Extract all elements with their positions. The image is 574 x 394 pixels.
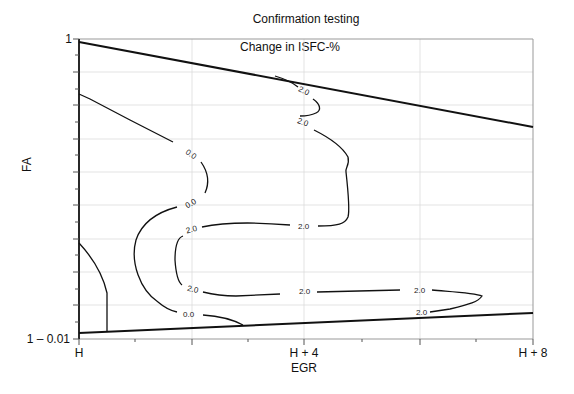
contour-label: 2.0 bbox=[416, 308, 428, 317]
contour-label: 2.0 bbox=[296, 116, 310, 128]
contour-label: 2.0 bbox=[186, 284, 200, 296]
contour-labels: 2.0 2.0 0.0 0.0 2.0 2.0 2.0 2.0 2.0 2.0 … bbox=[183, 85, 428, 319]
contour-label: 0.0 bbox=[184, 147, 199, 161]
contour-label: 2.0 bbox=[299, 287, 311, 296]
contour-plot: 2.0 2.0 0.0 0.0 2.0 2.0 2.0 2.0 2.0 2.0 … bbox=[0, 0, 574, 394]
contour-label: 2.0 bbox=[185, 224, 199, 236]
contour-label: 2.0 bbox=[414, 286, 426, 295]
contour-label: 2.0 bbox=[298, 222, 310, 231]
contour-label: 0.0 bbox=[183, 310, 195, 319]
contour-label: 2.0 bbox=[297, 85, 311, 98]
upper-boundary-line bbox=[79, 42, 533, 127]
x-axis-ticks bbox=[79, 339, 533, 345]
lower-boundary-line bbox=[79, 313, 533, 333]
contour-label: 0.0 bbox=[184, 197, 199, 211]
